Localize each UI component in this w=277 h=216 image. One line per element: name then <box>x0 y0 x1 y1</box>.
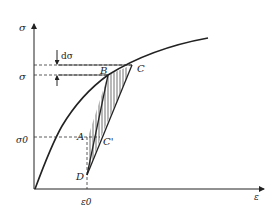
sigma0-tick-label: σ0 <box>16 135 28 145</box>
dsigma-label: dσ <box>61 51 73 61</box>
point-c-label: C <box>137 63 145 74</box>
stress-strain-diagram: σ ε dσ σ σ0 ε0 B C A C' D <box>0 0 277 216</box>
point-a-label: A <box>76 131 84 142</box>
sigma-axis-label: σ <box>19 22 27 33</box>
epsilon-axis-label: ε <box>254 192 259 202</box>
epsilon0-tick-label: ε0 <box>81 197 92 207</box>
point-c-prime-label: C' <box>103 136 113 147</box>
point-b-label: B <box>99 65 107 76</box>
point-d-label: D <box>75 171 84 182</box>
sigma-tick-label: σ <box>19 71 27 82</box>
reloading-line-cd <box>87 65 132 175</box>
hysteresis-hatch <box>90 60 126 180</box>
